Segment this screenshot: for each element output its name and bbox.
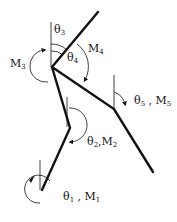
m1-arrowhead-icon (29, 175, 35, 183)
theta3-arc-icon (51, 44, 67, 50)
label-theta2-m2: θ2,M2 (87, 135, 117, 149)
label-theta1-m1: θ1 , M1 (63, 190, 100, 204)
labels: θ3 M4 θ4 M3 θ5 , M5 θ2,M2 θ1 , M1 (10, 23, 171, 204)
m3-arrow-icon (30, 50, 48, 82)
leg-segment (42, 67, 70, 190)
label-theta3: θ3 (54, 23, 65, 37)
m4-arrow-icon (77, 44, 88, 80)
label-theta5-m5: θ5 , M5 (134, 94, 171, 108)
m5-arrow-icon (114, 92, 125, 104)
label-theta4: θ4 (67, 51, 79, 65)
label-m4: M4 (88, 42, 104, 56)
linkage-diagram: θ3 M4 θ4 M3 θ5 , M5 θ2,M2 θ1 , M1 (0, 0, 177, 222)
m2-arrow-icon (69, 108, 87, 142)
label-m3: M3 (10, 57, 26, 71)
